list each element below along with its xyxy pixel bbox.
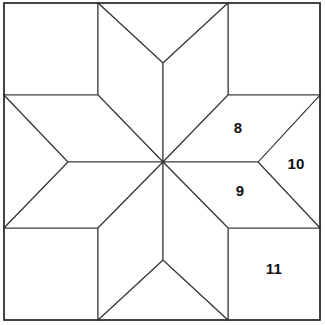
star-block-figure: 8 10 9 11 [0, 0, 325, 325]
upper-left-corner-square [4, 3, 98, 95]
piece-label-10: 10 [287, 156, 304, 171]
lower-left-corner-square [4, 228, 98, 320]
piece-label-9: 9 [236, 183, 245, 198]
upper-right-corner-square [228, 3, 320, 95]
piece-label-8: 8 [234, 120, 243, 135]
piece-label-11: 11 [266, 261, 282, 276]
